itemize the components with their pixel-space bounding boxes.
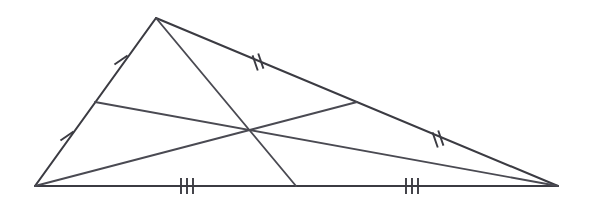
triangle-sides-group — [35, 18, 558, 186]
triangle-medians-figure — [0, 0, 594, 208]
tick-marks-layer — [60, 53, 443, 194]
median-from-right-line — [95, 102, 558, 186]
tick-upper-right-1 — [253, 55, 258, 70]
tick-upper-right-group — [253, 53, 264, 70]
medians-group — [35, 18, 558, 186]
tick-lower-right-group — [433, 130, 444, 147]
median-from-apex-line — [156, 18, 296, 186]
median-from-left-line — [35, 102, 357, 186]
geometry-diagram-container — [0, 0, 594, 208]
